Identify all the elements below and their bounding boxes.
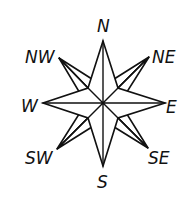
label-northeast: NE bbox=[152, 47, 176, 67]
compass-rose-diagram: N NE E SE S SW W NW bbox=[0, 0, 192, 204]
label-east: E bbox=[166, 97, 177, 117]
label-south: S bbox=[97, 172, 108, 192]
label-southeast: SE bbox=[148, 148, 170, 168]
label-northwest: NW bbox=[25, 47, 56, 67]
label-southwest: SW bbox=[25, 148, 54, 168]
label-north: N bbox=[97, 16, 110, 36]
center-dot bbox=[101, 101, 104, 104]
label-west: W bbox=[21, 96, 39, 116]
